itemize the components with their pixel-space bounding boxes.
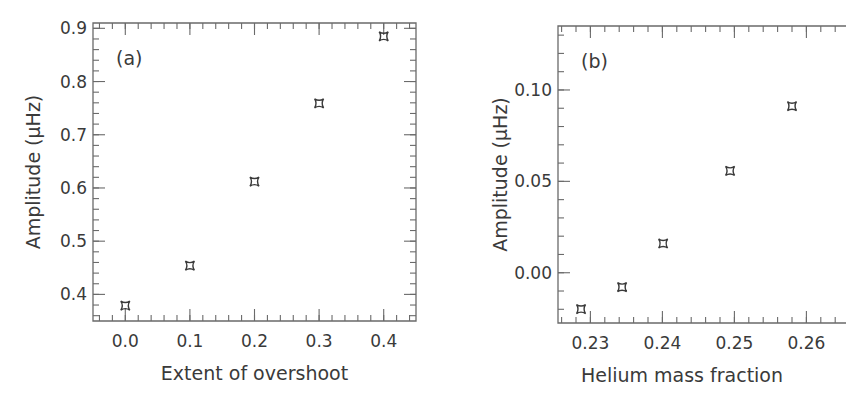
- x-tick-label: 0.26: [787, 333, 825, 353]
- panel-label: (b): [581, 50, 608, 72]
- x-tick-label: 0.23: [571, 333, 609, 353]
- y-tick-label: 0.5: [60, 231, 87, 251]
- x-tick-label: 0.4: [370, 331, 397, 351]
- data-point-star-icon: [659, 239, 668, 248]
- figure: 0.00.10.20.30.40.40.50.60.70.80.9Extent …: [0, 0, 846, 399]
- x-axis-label: Extent of overshoot: [161, 362, 348, 384]
- y-tick-label: 0.7: [60, 125, 87, 145]
- y-tick-label: 0.10: [514, 80, 552, 100]
- data-point-star-icon: [788, 102, 797, 111]
- x-tick-label: 0.25: [715, 333, 753, 353]
- x-axis-label: Helium mass fraction: [581, 364, 783, 386]
- y-tick-label: 0.05: [514, 171, 552, 191]
- data-point-star-icon: [121, 301, 130, 310]
- y-axis-label: Amplitude (μHz): [489, 97, 511, 252]
- y-tick-label: 0.8: [60, 72, 87, 92]
- x-tick-label: 0.3: [306, 331, 333, 351]
- y-tick-label: 0.00: [514, 263, 552, 283]
- panel-label: (a): [116, 47, 142, 69]
- data-point-star-icon: [726, 166, 735, 175]
- data-point-star-icon: [577, 305, 586, 314]
- y-tick-label: 0.4: [60, 284, 87, 304]
- data-point-star-icon: [618, 283, 627, 292]
- y-tick-label: 0.9: [60, 18, 87, 38]
- x-tick-label: 0.24: [643, 333, 681, 353]
- panel-a-overshoot: 0.00.10.20.30.40.40.50.60.70.80.9Extent …: [22, 18, 416, 384]
- data-point-star-icon: [315, 99, 324, 108]
- panel-b-helium: 0.230.240.250.260.000.050.10Helium mass …: [489, 26, 846, 386]
- data-point-star-icon: [379, 32, 388, 41]
- x-tick-label: 0.0: [112, 331, 139, 351]
- data-point-star-icon: [185, 261, 194, 270]
- y-tick-label: 0.6: [60, 178, 87, 198]
- x-tick-label: 0.2: [241, 331, 268, 351]
- data-point-star-icon: [250, 177, 259, 186]
- y-axis-label: Amplitude (μHz): [22, 95, 44, 250]
- x-tick-label: 0.1: [176, 331, 203, 351]
